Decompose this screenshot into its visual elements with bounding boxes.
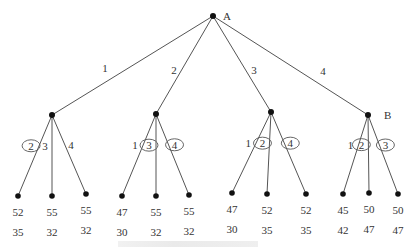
payoff-value-2: 32 <box>81 224 92 236</box>
payoff-value-1: 55 <box>184 205 196 217</box>
edge-label: 2 <box>359 139 365 151</box>
figure-caption <box>118 241 258 247</box>
decision-node <box>153 111 159 117</box>
payoff-value-1: 47 <box>117 206 129 218</box>
tree-edge <box>343 115 368 194</box>
payoff-value-2: 32 <box>151 226 162 238</box>
payoff-value-1: 55 <box>47 206 59 218</box>
payoff-value-2: 32 <box>184 225 195 237</box>
payoff-value-1: 47 <box>227 203 239 215</box>
leaf-node <box>83 191 89 197</box>
leaf-node <box>15 193 21 199</box>
edge-label: 1 <box>245 137 251 149</box>
payoff-value-2: 30 <box>117 226 129 238</box>
leaf-node <box>229 190 235 196</box>
payoff-value-2: 32 <box>47 226 58 238</box>
edge-label: 4 <box>288 137 294 149</box>
tree-edge <box>213 16 368 115</box>
edge-label: 4 <box>68 139 74 151</box>
leaf-node <box>366 190 372 196</box>
edge-label: 4 <box>320 65 326 77</box>
tree-edge <box>156 114 189 195</box>
tree-edge <box>18 115 52 196</box>
payoff-value-2: 47 <box>393 224 405 236</box>
root-node <box>210 13 216 19</box>
edge-label: 3 <box>383 139 389 151</box>
decision-node <box>49 112 55 118</box>
leaf-node <box>264 191 270 197</box>
payoff-value-1: 55 <box>151 206 163 218</box>
payoff-value-2: 42 <box>338 224 349 236</box>
payoff-value-2: 30 <box>227 223 239 235</box>
payoff-value-2: 35 <box>13 226 25 238</box>
decision-node <box>365 112 371 118</box>
edge-label: 2 <box>171 64 177 76</box>
payoff-value-1: 50 <box>364 203 376 215</box>
tree-edge <box>52 115 86 194</box>
leaf-node <box>395 191 401 197</box>
tree-edge <box>232 112 271 193</box>
payoff-value-1: 45 <box>338 204 350 216</box>
edge-label: 3 <box>42 140 48 152</box>
leaf-node <box>303 191 309 197</box>
edge-label: 1 <box>102 62 108 74</box>
payoff-value-1: 52 <box>13 206 24 218</box>
leaf-node <box>153 193 159 199</box>
edge-label: 1 <box>132 139 138 151</box>
tree-edge <box>156 16 213 114</box>
tree-edge <box>122 114 156 196</box>
leaf-node <box>340 191 346 197</box>
payoff-value-1: 52 <box>262 204 273 216</box>
edge-label: 4 <box>172 139 178 151</box>
tree-edge <box>368 115 398 194</box>
leaf-node <box>119 193 125 199</box>
leaf-node <box>49 193 55 199</box>
tree-edge <box>52 16 213 115</box>
root-node-label: A <box>223 10 231 22</box>
edge-label: 2 <box>260 137 266 149</box>
decision-node <box>268 109 274 115</box>
tree-edge <box>368 115 369 193</box>
edge-label: 2 <box>28 140 34 152</box>
payoff-value-2: 35 <box>301 224 313 236</box>
leaf-node <box>186 192 192 198</box>
tree-edge <box>271 112 306 194</box>
decision-tree-diagram: 1234252353553245532147303553245532147302… <box>0 0 411 250</box>
payoff-value-2: 35 <box>262 224 274 236</box>
edge-label: 3 <box>146 139 152 151</box>
payoff-value-2: 47 <box>364 223 376 235</box>
edge-label: 3 <box>251 64 257 76</box>
tree-edge <box>213 16 271 112</box>
payoff-value-1: 55 <box>81 204 93 216</box>
payoff-value-1: 50 <box>393 204 405 216</box>
node-label-b: B <box>384 109 391 121</box>
tree-edge <box>267 112 271 194</box>
payoff-value-1: 52 <box>301 204 312 216</box>
